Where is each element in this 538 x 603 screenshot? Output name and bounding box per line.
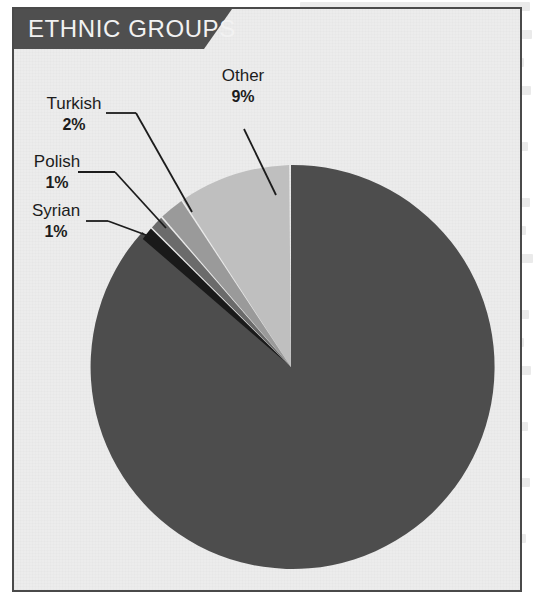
page-title: ETHNIC GROUPS (28, 9, 236, 49)
pie-chart (14, 9, 520, 590)
ethnic-groups-chart-panel: ETHNIC GROUPS Other 9% Turkish 2% Polish… (12, 7, 522, 592)
leader-line-polish (115, 172, 166, 228)
leader-line-syrian (108, 221, 154, 238)
leader-line-turkish (136, 113, 192, 212)
pie-slice-german (91, 165, 495, 569)
